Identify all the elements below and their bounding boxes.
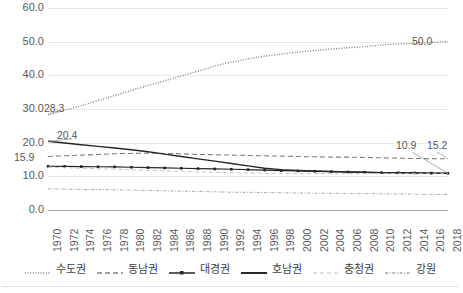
legend-item-대경권[interactable]: 대경권 xyxy=(168,263,230,275)
legend-item-호남권[interactable]: 호남권 xyxy=(240,263,302,275)
legend-swatch-icon xyxy=(240,264,268,274)
series-marker xyxy=(247,168,250,171)
x-axis-tick-label: 2008 xyxy=(369,212,380,252)
legend-label: 강원 xyxy=(416,263,436,275)
annotation-leader-line xyxy=(437,152,448,159)
legend-item-강원[interactable]: 강원 xyxy=(384,263,436,275)
data-label: 15.9 xyxy=(14,152,34,163)
data-label: 10.9 xyxy=(396,140,416,151)
x-axis-tick-label: 2000 xyxy=(302,212,313,252)
x-axis-tick-label: 1996 xyxy=(269,212,280,252)
x-axis-tick-label: 2010 xyxy=(385,212,396,252)
x-axis-tick-label: 1998 xyxy=(285,212,296,252)
data-label: 28.3 xyxy=(44,103,64,114)
x-axis-tick-label: 2016 xyxy=(435,212,446,252)
legend-label: 수도권 xyxy=(56,263,86,275)
series-line-동남권 xyxy=(48,153,448,159)
data-label: 20.4 xyxy=(57,130,77,141)
x-axis-tick-label: 1988 xyxy=(202,212,213,252)
series-marker xyxy=(180,167,183,170)
x-axis-tick-label: 2014 xyxy=(419,212,430,252)
x-axis-tick-label: 1986 xyxy=(185,212,196,252)
series-line-강원 xyxy=(48,189,448,195)
x-axis-tick-label: 1992 xyxy=(235,212,246,252)
x-axis-tick-label: 1972 xyxy=(69,212,80,252)
x-axis-tick-label: 1976 xyxy=(102,212,113,252)
series-marker xyxy=(147,166,150,169)
legend-swatch-icon xyxy=(96,264,124,274)
series-marker xyxy=(197,167,200,170)
series-marker xyxy=(213,168,216,171)
data-label: 50.0 xyxy=(412,36,432,47)
series-marker xyxy=(97,165,100,168)
x-axis-tick-label: 1990 xyxy=(219,212,230,252)
x-axis-tick-label: 1980 xyxy=(135,212,146,252)
legend-item-충청권[interactable]: 충청권 xyxy=(312,263,374,275)
x-axis-tick-label: 2018 xyxy=(452,212,463,252)
chart-legend: 수도권동남권대경권호남권충청권강원 xyxy=(0,258,460,280)
x-axis-tick-label: 2012 xyxy=(402,212,413,252)
legend-swatch-icon xyxy=(312,264,340,274)
legend-swatch-icon xyxy=(384,264,412,274)
x-axis-tick-label: 1974 xyxy=(85,212,96,252)
x-axis-tick-label: 1970 xyxy=(52,212,63,252)
data-label: 15.2 xyxy=(427,140,447,151)
series-marker xyxy=(263,169,266,172)
series-marker xyxy=(163,167,166,170)
legend-label: 대경권 xyxy=(200,263,230,275)
legend-label: 충청권 xyxy=(344,263,374,275)
x-axis-tick-label: 1982 xyxy=(152,212,163,252)
series-marker xyxy=(130,166,133,169)
x-axis-tick-label: 2006 xyxy=(352,212,363,252)
legend-bottom-rule xyxy=(2,286,458,287)
x-axis-tick-label: 2002 xyxy=(319,212,330,252)
series-line-수도권 xyxy=(48,42,448,115)
x-axis-tick-label: 1984 xyxy=(169,212,180,252)
legend-label: 동남권 xyxy=(128,263,158,275)
legend-item-수도권[interactable]: 수도권 xyxy=(24,263,86,275)
legend-swatch-icon xyxy=(24,264,52,274)
x-axis-tick-label: 1978 xyxy=(119,212,130,252)
legend-label: 호남권 xyxy=(272,263,302,275)
series-marker xyxy=(80,165,83,168)
x-axis-tick-label: 2004 xyxy=(335,212,346,252)
legend-swatch-icon xyxy=(168,264,196,274)
legend-item-동남권[interactable]: 동남권 xyxy=(96,263,158,275)
x-axis-tick-label: 1994 xyxy=(252,212,263,252)
series-marker xyxy=(113,166,116,169)
series-marker xyxy=(230,168,233,171)
x-axis-tick-labels: 1970197219741976197819801982198419861988… xyxy=(48,212,448,256)
